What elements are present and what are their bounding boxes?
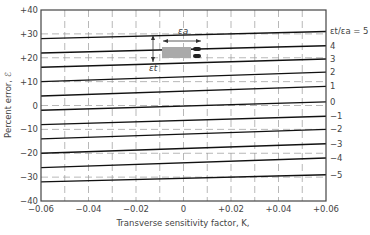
gauge-grid — [162, 47, 191, 58]
y-tick-label: +30 — [20, 29, 38, 39]
series-label: −1 — [330, 111, 343, 121]
series-label: −4 — [330, 153, 343, 163]
y-tick-label: −20 — [20, 148, 38, 158]
x-tick-labels: −0.06−0.04−0.020+0.02+0.04+0.06 — [28, 204, 339, 214]
gauge-tab-top — [193, 47, 201, 51]
series-label: −3 — [330, 139, 343, 149]
axial-strain-label: εa — [178, 26, 188, 36]
series-label: εt/εa = 5 — [330, 26, 369, 36]
y-tick-label: −30 — [20, 172, 38, 182]
x-axis-label: Transverse sensitivity factor, K, — [115, 218, 249, 228]
y-tick-label: 0 — [33, 101, 38, 111]
transverse-strain-label: εt — [149, 63, 158, 73]
gauge-tab-bottom — [193, 54, 201, 58]
x-tick-label: −0.04 — [75, 204, 101, 214]
series-label: 0 — [330, 97, 335, 107]
x-tick-label: +0.04 — [265, 204, 291, 214]
series-label: 1 — [330, 81, 335, 91]
y-tick-labels: +40+30+20+100−10−20−30−40 — [20, 5, 38, 206]
chart: +40+30+20+100−10−20−30−40 −0.06−0.04−0.0… — [0, 0, 370, 235]
series-label: 2 — [330, 67, 335, 77]
x-tick-label: +0.06 — [313, 204, 339, 214]
x-tick-label: 0 — [181, 204, 186, 214]
y-tick-label: +20 — [20, 53, 38, 63]
y-axis-label: Percent error, ℰ — [3, 71, 13, 138]
x-tick-label: −0.06 — [28, 204, 54, 214]
series-label: −2 — [330, 124, 343, 134]
x-tick-label: −0.02 — [123, 204, 149, 214]
series-label: −5 — [330, 170, 343, 180]
y-tick-label: −10 — [20, 124, 38, 134]
y-tick-label: +40 — [20, 5, 38, 15]
series-labels: εt/εa = 543210−1−2−3−4−5 — [330, 26, 369, 179]
series-label: 3 — [330, 54, 335, 64]
series-label: 4 — [330, 41, 335, 51]
x-tick-label: +0.02 — [218, 204, 244, 214]
y-tick-label: +10 — [20, 77, 38, 87]
